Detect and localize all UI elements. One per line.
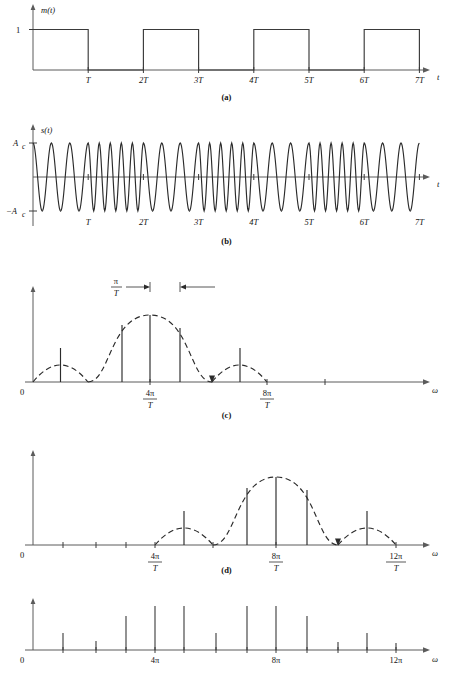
panel-a-xtick-6: 6T: [360, 75, 370, 85]
y-axis-arrow-d: [31, 450, 36, 456]
annotation-pi-over-T-num: π: [114, 276, 119, 286]
panel-c-xlabel: ω: [432, 385, 438, 395]
panel-b-ytick-top-sub: c: [22, 142, 26, 151]
panel-c-xtick-4pi-den: T: [148, 400, 154, 410]
panel-a-xtick-4: 4T: [249, 75, 259, 85]
panel-d-spectrum-high: 0 4π T 8π T 12π T ω: [0, 432, 453, 574]
panel-a-ytick-label: 1: [16, 25, 20, 35]
panel-e-plot: 0 4π 8π 12π ω: [0, 588, 453, 674]
panel-a-xlabel: t: [437, 72, 440, 82]
panel-c-origin-label: 0: [20, 387, 24, 397]
panel-b-xtick-2: 2T: [139, 217, 149, 227]
panel-b-xtick-4: 4T: [249, 217, 259, 227]
y-axis-arrow-a: [31, 4, 36, 10]
panel-c-xtick-4pi-num: 4π: [146, 388, 155, 398]
panel-d-plot: 0 4π T 8π T 12π T ω: [0, 432, 453, 574]
y-axis-arrow-c: [31, 286, 36, 292]
panel-e-xlabel: ω: [432, 654, 438, 664]
panel-e-composite-spectrum: 0 4π 8π 12π ω: [0, 588, 453, 674]
panel-b-plot: s(t) A c −A c T 2T 3T 4T 5T 6T 7T t: [0, 118, 453, 236]
x-axis-arrow-e: [423, 647, 430, 652]
panel-a-xtick-1: T: [86, 75, 92, 85]
panel-d-origin-label: 0: [20, 550, 24, 560]
panel-b-ytick-bot-sub: c: [22, 210, 26, 219]
panel-a-message-signal: m(t) 1 T 2T 3T 4T 5T 6T 7T t: [0, 0, 453, 92]
x-axis-arrow-a: [423, 67, 430, 72]
square-wave-trace: [33, 30, 419, 71]
panel-b-ytick-top: A: [12, 138, 19, 148]
panel-b-fsk-waveform: s(t) A c −A c T 2T 3T 4T 5T 6T 7T t: [0, 118, 453, 236]
panel-b-ytick-bot: −A: [6, 206, 18, 216]
annotation-arrow-head-left: [144, 285, 150, 290]
panel-a-xtick-7: 7T: [415, 75, 425, 85]
y-axis-arrow-e: [31, 598, 36, 604]
panel-b-ylabel: s(t): [41, 125, 53, 135]
panel-e-origin-label: 0: [20, 655, 24, 665]
x-axis-arrow-c: [423, 379, 430, 384]
panel-b-caption: (b): [0, 236, 453, 246]
panel-d-xtick-12pi-num: 12π: [390, 551, 404, 561]
y-axis-arrow-b: [31, 124, 36, 130]
panel-b-xlabel: t: [437, 179, 440, 189]
x-axis-arrow-d: [423, 542, 430, 547]
panel-a-xtick-3: 3T: [193, 75, 204, 85]
panel-c-xtick-8pi-den: T: [265, 400, 271, 410]
panel-d-xtick-4pi-num: 4π: [151, 551, 160, 561]
panel-b-xtick-7: 7T: [415, 217, 425, 227]
panel-b-xtick-1: T: [86, 217, 92, 227]
panel-c-spectrum-low: π T 0 4π T 8π T ω: [0, 262, 453, 410]
panel-e-xtick-12pi: 12π: [390, 655, 404, 665]
panel-c-caption: (c): [0, 410, 453, 420]
panel-a-ylabel: m(t): [41, 5, 55, 15]
panel-b-xtick-5: 5T: [305, 217, 315, 227]
panel-e-xtick-8pi: 8π: [272, 655, 281, 665]
panel-a-plot: m(t) 1 T 2T 3T 4T 5T 6T 7T t: [0, 0, 453, 92]
panel-b-xtick-6: 6T: [360, 217, 370, 227]
panel-a-xtick-2: 2T: [139, 75, 149, 85]
panel-d-caption: (d): [0, 565, 453, 575]
panel-d-xtick-8pi-num: 8π: [272, 551, 281, 561]
annotation-pi-over-T-den: T: [114, 288, 120, 298]
panel-c-xtick-8pi-num: 8π: [263, 388, 272, 398]
panel-e-xtick-4pi: 4π: [151, 655, 160, 665]
panel-b-xtick-3: 3T: [193, 217, 204, 227]
x-axis-arrow-b: [423, 174, 430, 179]
panel-a-caption: (a): [0, 92, 453, 102]
panel-d-xlabel: ω: [432, 548, 438, 558]
panel-c-plot: π T 0 4π T 8π T ω: [0, 262, 453, 410]
panel-a-xtick-5: 5T: [305, 75, 315, 85]
